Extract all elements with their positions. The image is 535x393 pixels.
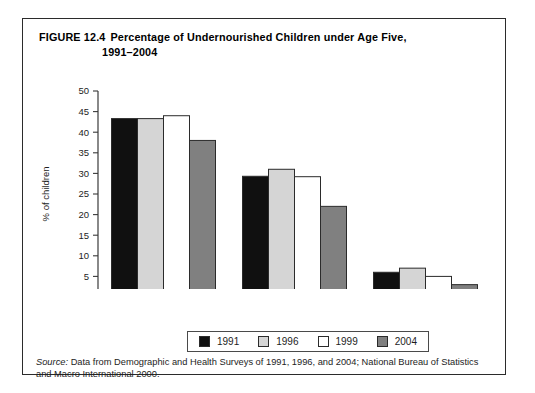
bar: [426, 276, 452, 289]
y-tick-label: 35: [78, 147, 89, 158]
bar: [295, 177, 321, 289]
y-tick-label: 10: [78, 250, 89, 261]
bar: [138, 119, 164, 289]
legend-swatch: [318, 336, 329, 347]
chart-svg: 05101520253035404550 stuntingunderweight…: [23, 57, 507, 289]
y-tick-label: 45: [78, 106, 89, 117]
y-tick-label: 15: [78, 230, 89, 241]
bar: [321, 206, 347, 289]
y-tick-label: 5: [84, 271, 89, 282]
y-tick-label: 30: [78, 168, 89, 179]
bar: [190, 140, 216, 289]
source-label: Source:: [36, 357, 68, 367]
y-axis-ticks: 05101520253035404550: [78, 85, 98, 289]
legend-item: 2004: [377, 336, 417, 347]
source-text: Data from Demographic and Health Surveys…: [36, 357, 478, 379]
y-axis-title: % of children: [40, 167, 51, 222]
y-tick-label: 40: [78, 127, 89, 138]
legend-label: 2004: [395, 336, 417, 347]
legend-item: 1991: [199, 336, 239, 347]
legend-label: 1991: [217, 336, 239, 347]
bar: [400, 268, 426, 289]
legend-label: 1996: [276, 336, 298, 347]
source-note: Source: Data from Demographic and Health…: [36, 356, 494, 380]
legend-swatch: [199, 336, 210, 347]
legend-item: 1996: [258, 336, 298, 347]
legend-swatch: [377, 336, 388, 347]
legend-item: 1999: [318, 336, 358, 347]
figure-title-line-1: Percentage of Undernourished Children un…: [110, 31, 406, 43]
bar: [374, 272, 400, 289]
bar: [164, 116, 190, 289]
figure-title: FIGURE 12.4Percentage of Undernourished …: [39, 30, 489, 59]
bar: [112, 119, 138, 289]
legend-label: 1999: [336, 336, 358, 347]
legend-swatch: [258, 336, 269, 347]
figure-panel: FIGURE 12.4Percentage of Undernourished …: [22, 18, 506, 375]
bar: [243, 176, 269, 289]
figure-number: FIGURE 12.4: [39, 31, 105, 43]
bar: [269, 169, 295, 289]
y-tick-label: 25: [78, 188, 89, 199]
bars-group: [112, 116, 478, 289]
bar-chart: 05101520253035404550 stuntingunderweight…: [23, 57, 507, 289]
bar: [452, 285, 478, 289]
y-tick-label: 20: [78, 209, 89, 220]
y-tick-label: 50: [78, 85, 89, 96]
chart-legend: 1991199619992004: [187, 331, 429, 352]
